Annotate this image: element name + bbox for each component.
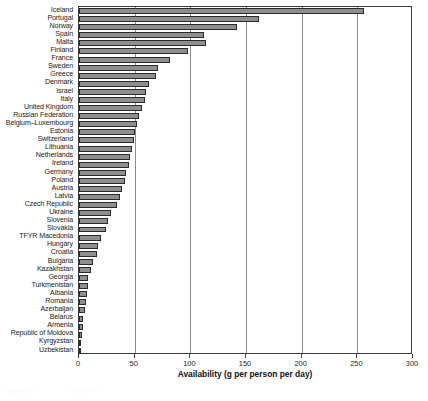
bar-row — [79, 112, 413, 120]
x-tick-label: 250 — [350, 359, 362, 368]
plot-area — [78, 6, 412, 354]
bar-row — [79, 185, 413, 193]
x-tick-0 — [78, 354, 79, 358]
bar — [79, 16, 259, 22]
bar-row — [79, 339, 413, 347]
bar-row — [79, 258, 413, 266]
bar-row — [79, 282, 413, 290]
bar-row — [79, 23, 413, 31]
x-tick-100 — [189, 354, 190, 358]
bar — [79, 57, 170, 63]
bar-row — [79, 161, 413, 169]
x-tick-200 — [301, 354, 302, 358]
bar-row — [79, 266, 413, 274]
bar — [79, 283, 88, 289]
bar — [79, 105, 142, 111]
bar — [79, 113, 139, 119]
bar-row — [79, 315, 413, 323]
bar — [79, 299, 86, 305]
bar-row — [79, 290, 413, 298]
bar — [79, 259, 93, 265]
bar-row — [79, 64, 413, 72]
bar-row — [79, 47, 413, 55]
x-tick-150 — [245, 354, 246, 358]
bar — [79, 178, 125, 184]
x-axis-title: Availability (g per person per day) — [78, 369, 412, 379]
bar-row — [79, 250, 413, 258]
bar-row — [79, 274, 413, 282]
x-tick-label: 300 — [406, 359, 418, 368]
bar — [79, 348, 81, 354]
bar-row — [79, 209, 413, 217]
bar-row — [79, 56, 413, 64]
bar-row — [79, 298, 413, 306]
bar-row — [79, 306, 413, 314]
bar — [79, 137, 134, 143]
bar-row — [79, 193, 413, 201]
bar-row — [79, 88, 413, 96]
bar-row — [79, 169, 413, 177]
x-tick-label: 100 — [183, 359, 195, 368]
bar — [79, 40, 206, 46]
bar-row — [79, 234, 413, 242]
bar — [79, 24, 237, 30]
bar-row — [79, 136, 413, 144]
bar — [79, 227, 106, 233]
bar-row — [79, 96, 413, 104]
bar — [79, 8, 364, 14]
bar — [79, 154, 130, 160]
bar — [79, 235, 101, 241]
bar — [79, 267, 91, 273]
bar-row — [79, 80, 413, 88]
bar — [79, 243, 98, 249]
bar — [79, 129, 135, 135]
y-axis-category-labels: IcelandPortugalNorwaySpainMaltaFinlandFr… — [0, 6, 76, 354]
y-axis-label: Uzbekistan — [39, 346, 73, 355]
bar-row — [79, 120, 413, 128]
bar-row — [79, 226, 413, 234]
bar — [79, 97, 145, 103]
bar-row — [79, 242, 413, 250]
bar-row — [79, 201, 413, 209]
bar — [79, 307, 85, 313]
bar — [79, 170, 126, 176]
bar-series — [79, 7, 411, 353]
x-tick-300 — [412, 354, 413, 358]
bar-row — [79, 15, 413, 23]
bar — [79, 48, 188, 54]
bar — [79, 316, 83, 322]
bar — [79, 202, 117, 208]
x-tick-label: 150 — [239, 359, 251, 368]
x-tick-label: 200 — [294, 359, 306, 368]
x-tick-250 — [356, 354, 357, 358]
bar — [79, 73, 156, 79]
bar-row — [79, 177, 413, 185]
bar — [79, 332, 82, 338]
bar-row — [79, 39, 413, 47]
bar — [79, 162, 129, 168]
bar-row — [79, 153, 413, 161]
bar — [79, 210, 111, 216]
bar — [79, 291, 87, 297]
bar — [79, 65, 158, 71]
bar-chart: IcelandPortugalNorwaySpainMaltaFinlandFr… — [0, 0, 428, 401]
bar — [79, 251, 97, 257]
bar — [79, 186, 122, 192]
bar — [79, 218, 108, 224]
x-tick-label: 0 — [76, 359, 80, 368]
bar-row — [79, 217, 413, 225]
bar — [79, 32, 204, 38]
bar-row — [79, 72, 413, 80]
bar-row — [79, 104, 413, 112]
bar — [79, 121, 137, 127]
bar — [79, 89, 146, 95]
x-tick-label: 50 — [130, 359, 138, 368]
x-tick-50 — [134, 354, 135, 358]
bar — [79, 275, 88, 281]
bar-row — [79, 145, 413, 153]
bar-row — [79, 31, 413, 39]
bar-row — [79, 128, 413, 136]
bar-row — [79, 323, 413, 331]
scan-artifact — [6, 390, 116, 393]
bar — [79, 194, 120, 200]
